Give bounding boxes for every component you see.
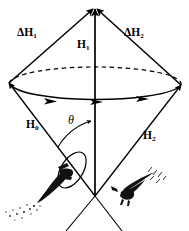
label-theta: θ — [68, 114, 74, 126]
h2-vector — [95, 85, 181, 196]
label-h1-subscript: 1 — [86, 44, 90, 52]
cone-side-extensions — [66, 196, 122, 231]
label-h2-text: H — [143, 129, 152, 141]
label-delta-h1-text: ΔH — [17, 26, 33, 38]
h2-extension-line — [66, 196, 95, 231]
label-h2-subscript: 2 — [152, 135, 156, 143]
label-h0-text: H — [26, 118, 35, 130]
bird-left-trail — [5, 204, 40, 220]
label-h2: H2 — [143, 130, 156, 142]
label-delta-h1: ΔH1 — [17, 27, 37, 39]
bird-right-plume — [111, 186, 118, 192]
bird-left-body — [37, 173, 66, 203]
delta-h2-vector — [97, 9, 181, 85]
bird-figure-left — [5, 163, 73, 221]
bird-figure-right — [111, 167, 166, 206]
bird-right-trail — [148, 167, 166, 183]
label-h1: H1 — [77, 39, 90, 51]
figure-container: ΔH1 ΔH2 H1 H0 H2 θ — [0, 0, 189, 231]
label-delta-h1-subscript: 1 — [33, 32, 37, 40]
label-h0-subscript: 0 — [35, 124, 39, 132]
theta-angle-arc — [58, 121, 91, 147]
label-h1-text: H — [77, 38, 86, 50]
ellipse-direction-arrow-1 — [44, 98, 57, 105]
label-h0: H0 — [26, 119, 39, 131]
label-delta-h2-text: ΔH — [124, 26, 140, 38]
label-delta-h2: ΔH2 — [124, 27, 144, 39]
h0-extension-line — [95, 196, 122, 231]
label-delta-h2-subscript: 2 — [140, 32, 144, 40]
bird-right-leg-2 — [127, 200, 130, 206]
bird-right-leg-1 — [120, 199, 124, 205]
